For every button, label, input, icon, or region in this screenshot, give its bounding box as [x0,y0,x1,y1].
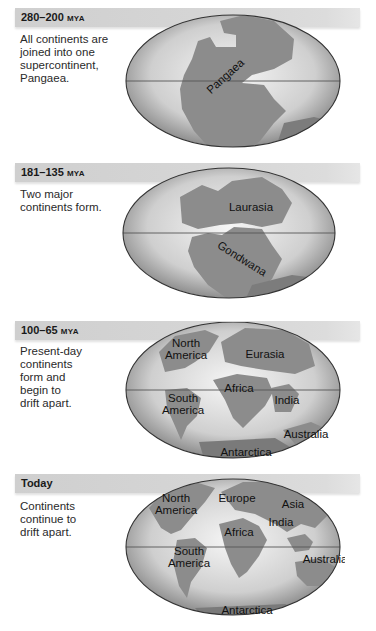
panel-description: Continents continue to drift apart. [20,500,120,539]
map-label-antarctica: Antarctica [221,604,273,616]
description-line: form and [20,371,120,384]
description-line: begin to [20,384,120,397]
map-label-europe: Europe [218,492,255,504]
description-line: Continents [20,500,120,513]
map-label-south-america-line1: South [168,392,198,404]
panel-description: Present-day continents form and begin to… [20,345,120,410]
map-label-africa: Africa [224,526,254,538]
period-title: Today [21,477,53,489]
map-label-india: India [275,394,301,406]
panel-181-135-mya: 181–135 MYA Two major continents form. L… [0,155,376,305]
panel-description: All continents are joined into one super… [20,33,120,85]
map-label-antarctica: Antarctica [220,446,272,458]
period-unit: MYA [67,169,85,178]
map-label-australia: Australia [303,553,345,565]
description-line: drift apart. [20,526,120,539]
description-line: continue to [20,513,120,526]
map-label-north-america-line1: North [162,492,190,504]
period-title: 280–200 MYA [21,11,85,23]
description-line: Present-day [20,345,120,358]
panel-280-200-mya: 280–200 MYA All continents are joined in… [0,0,376,155]
map-label-north-america-line2: America [165,349,208,361]
map-label-india: India [269,516,295,528]
description-line: All continents are [20,33,120,46]
period-range: 181–135 [21,166,64,178]
description-line: Pangaea. [20,72,120,85]
description-line: joined into one [20,46,120,59]
map-label-south-america-line1: South [174,545,204,557]
period-title: 100–65 MYA [21,324,79,336]
map-label-laurasia: Laurasia [229,201,274,213]
description-line: supercontinent, [20,59,120,72]
globe-map-laurasia-gondwana: Laurasia Gondwana [122,167,342,307]
map-label-north-america-line2: America [155,504,198,516]
period-unit: MYA [67,14,85,23]
globe-map-cretaceous: North America Eurasia Africa South Ameri… [125,322,345,462]
map-label-africa: Africa [224,382,254,394]
globe-map-pangaea: Pangaea [124,13,344,153]
map-label-south-america-line2: America [168,557,211,569]
map-label-south-america-line2: America [162,404,205,416]
description-line: Two major [20,188,120,201]
map-label-eurasia: Eurasia [246,348,286,360]
period-range: 280–200 [21,11,64,23]
globe-map-today: North America Europe Asia India Africa S… [125,478,345,620]
period-unit: MYA [61,327,79,336]
description-line: continents form. [20,201,120,214]
panel-description: Two major continents form. [20,188,120,214]
map-label-asia: Asia [282,498,305,510]
panel-today: Today Continents continue to drift apart… [0,466,376,631]
map-label-australia: Australia [284,428,329,440]
description-line: continents [20,358,120,371]
period-title: 181–135 MYA [21,166,85,178]
map-label-north-america-line1: North [172,337,200,349]
period-range: Today [21,477,53,489]
panel-100-65-mya: 100–65 MYA Present-day continents form a… [0,313,376,468]
period-range: 100–65 [21,324,58,336]
description-line: drift apart. [20,397,120,410]
